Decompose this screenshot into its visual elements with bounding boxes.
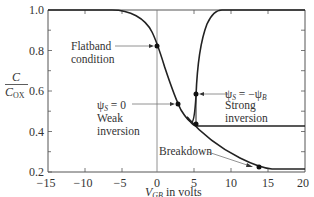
y-axis-title: C COX <box>5 70 28 100</box>
weak-inversion-label-line2: inversion <box>97 125 140 137</box>
x-tick-label: 20 <box>297 176 309 190</box>
x-tick-label: −5 <box>114 176 127 190</box>
strong-inversion-point <box>194 92 199 97</box>
plateau-start-point <box>194 122 199 127</box>
flatband-label-line1: Flatband <box>71 40 111 52</box>
y-axis-numerator: C <box>12 70 21 84</box>
weak-inversion-point <box>176 102 181 107</box>
breakdown-point <box>257 165 262 170</box>
strong-inversion-label-line2: inversion <box>225 112 268 124</box>
y-axis-denominator: COX <box>5 85 25 100</box>
deep-depletion-curve <box>187 117 305 169</box>
breakdown-label: Breakdown <box>159 145 212 157</box>
x-tick-label: −10 <box>74 176 93 190</box>
flatband-label-line2: condition <box>71 53 115 65</box>
strong-inversion-label-line1: Strong <box>225 99 256 112</box>
cv-chart: 0.2 0.4 0.6 0.8 1.0 −15 −10 −5 0 5 10 15… <box>0 0 314 197</box>
y-tick-label: 0.8 <box>29 44 44 58</box>
weak-inversion-psi-label: ψS = 0 <box>97 99 126 113</box>
x-tick-label: −15 <box>37 176 56 190</box>
annotations: Flatband condition ψS = 0 Weak inversion… <box>71 40 268 157</box>
x-tick-label: 0 <box>154 176 160 190</box>
y-tick-label: 0.6 <box>29 84 44 98</box>
flatband-point <box>155 44 160 49</box>
weak-inversion-label-line1: Weak <box>97 112 123 124</box>
x-tick-label: 15 <box>262 176 274 190</box>
y-tick-label: 0.4 <box>29 125 44 139</box>
y-tick-labels: 0.2 0.4 0.6 0.8 1.0 <box>29 3 44 179</box>
y-tick-label: 1.0 <box>29 3 44 17</box>
x-tick-label: 10 <box>225 176 237 190</box>
